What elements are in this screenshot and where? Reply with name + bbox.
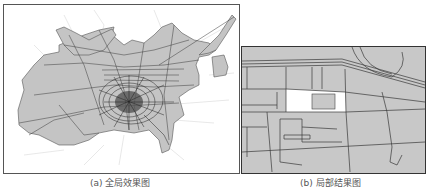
global-map	[4, 5, 239, 173]
caption-local: (b) 局部结果图	[300, 176, 361, 187]
local-map-panel	[241, 46, 426, 174]
region-main	[18, 23, 216, 153]
inner-parcel	[312, 94, 335, 109]
local-map	[242, 47, 425, 173]
region-island	[212, 55, 228, 77]
caption-global: (a) 全局效果图	[90, 176, 150, 187]
global-map-panel	[3, 4, 240, 174]
